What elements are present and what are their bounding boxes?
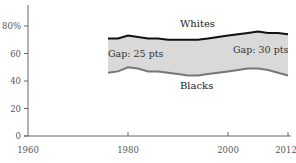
y-tick-label-60: 60: [10, 49, 21, 59]
gap-right-label: Gap: 30 pts: [233, 44, 289, 55]
y-tick-label-20: 20: [10, 104, 21, 114]
x-tick-label-1960: 1960: [17, 145, 39, 155]
whites-label: Whites: [180, 18, 215, 29]
gap-left-label: Gap: 25 pts: [108, 48, 164, 59]
x-tick-label-2000: 2000: [217, 145, 239, 155]
y-tick-label-0: 0: [16, 131, 21, 141]
y-tick-label-80: 80%: [2, 21, 21, 31]
x-tick-label-2012: 2012: [275, 145, 296, 155]
x-ticks: [128, 132, 288, 136]
chart: 0 20 40 60 80% 1960 1980 2000 2012 White…: [0, 0, 296, 163]
blacks-label: Blacks: [180, 80, 213, 91]
y-ticks: [24, 26, 28, 136]
x-tick-label-1980: 1980: [117, 145, 139, 155]
y-tick-label-40: 40: [10, 76, 21, 86]
